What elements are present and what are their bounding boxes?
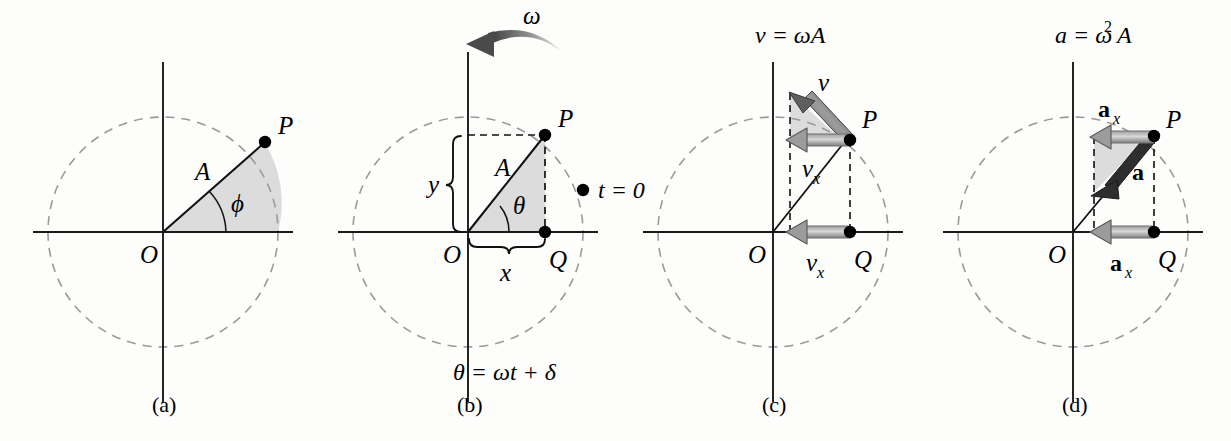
panel-c-label-p: P: [861, 106, 877, 133]
panel-c-label-vector-v: v: [818, 69, 830, 96]
panel-c-top-equation: v = ωA: [755, 22, 826, 48]
panel-a-label-angle-phi: ϕ: [231, 190, 244, 217]
panel-d-top-equation-tail: A: [1115, 22, 1132, 48]
panel-b-omega-arrow-tail: [488, 30, 562, 52]
panel-c-label-q: Q: [854, 246, 872, 273]
panel-c-vector-vx-lower: [786, 220, 850, 244]
panel-c-label-vx-upper: v x: [802, 155, 820, 187]
panel-a-point-p-marker: [259, 136, 271, 148]
panel-b-brace-y: [446, 136, 461, 232]
panel-b-label-brace-y: y: [425, 171, 440, 198]
panel-d-label-ax-lower: a x: [1110, 250, 1132, 281]
panel-d-label-ax-lower-sub: x: [1124, 264, 1132, 281]
panel-c-vector-vx-upper-shaft: [803, 134, 850, 146]
panel-c-label-vx-upper-sub: x: [812, 170, 820, 187]
panel-b-bottom-equation: θ = ωt + δ: [453, 359, 557, 385]
panel-d-label-q: Q: [1158, 246, 1176, 273]
panel-d-caption: (d): [1062, 392, 1088, 417]
panel-d-label-ax-lower-base: a: [1110, 250, 1122, 276]
panel-c-radius-line: [773, 135, 850, 232]
panel-d-top-equation: a = ω 2 A: [1055, 18, 1132, 48]
panel-c-point-q-marker: [844, 226, 856, 238]
panel-b-omega-arrow-head: [466, 31, 494, 57]
panel-b-label-omega: ω: [523, 2, 541, 29]
panel-c-vector-vx-lower-head: [786, 220, 807, 244]
panel-d-label-vector-a: a: [1132, 159, 1144, 185]
panel-d-vector-ax-lower-head: [1090, 220, 1111, 244]
panel-a-label-p: P: [277, 112, 293, 139]
panel-b-label-radius: A: [493, 154, 511, 181]
panel-b: ω P Q A θ y x O t = 0 θ = ωt + δ (b): [338, 2, 645, 417]
panel-a: P A ϕ O (a): [33, 62, 293, 417]
panel-b-label-origin: O: [443, 241, 461, 268]
panel-c: v = ωA P Q v v x v x O (c): [643, 22, 903, 417]
panel-a-label-origin: O: [140, 241, 158, 268]
panel-c-label-vx-lower-sub: x: [816, 264, 824, 281]
panel-b-t-zero-marker: [577, 184, 589, 196]
physics-figure-reference-circle: P A ϕ O (a): [0, 0, 1231, 441]
panel-b-label-p: P: [557, 105, 573, 132]
panel-d-point-p-marker: [1148, 130, 1160, 142]
panel-d-vector-ax-upper-shaft: [1107, 131, 1154, 143]
panel-a-label-radius: A: [193, 158, 211, 185]
panel-b-label-q: Q: [549, 246, 567, 273]
panel-b-caption: (b): [457, 392, 483, 417]
panel-d-top-equation-exponent: 2: [1104, 18, 1112, 35]
panel-c-label-origin: O: [748, 241, 766, 268]
panel-d-label-ax-upper-base: a: [1098, 96, 1110, 122]
panel-d-vector-ax-lower-shaft: [1107, 226, 1154, 238]
panel-d-vector-ax-lower: [1090, 220, 1154, 244]
panel-b-point-q-marker: [539, 226, 551, 238]
panel-d-point-q-marker: [1148, 226, 1160, 238]
figure-canvas: P A ϕ O (a): [0, 0, 1231, 441]
panel-a-shaded-sector: [163, 143, 282, 233]
panel-c-caption: (c): [762, 392, 786, 417]
panel-d-label-origin: O: [1048, 241, 1066, 268]
panel-d: a = ω 2 A P Q a a x a x O (d): [943, 18, 1203, 417]
panel-b-label-angle-theta: θ: [513, 192, 525, 219]
panel-c-vector-vx-lower-shaft: [803, 226, 850, 238]
panel-a-caption: (a): [152, 392, 176, 417]
panel-c-point-p-marker: [844, 134, 856, 146]
panel-b-point-p-marker: [539, 129, 551, 141]
panel-d-label-ax-upper-sub: x: [1112, 110, 1120, 127]
panel-b-brace-x: [469, 239, 545, 254]
panel-d-label-p: P: [1165, 106, 1181, 133]
panel-b-label-t-zero: t = 0: [598, 177, 645, 203]
panel-b-label-brace-x: x: [499, 259, 511, 286]
panel-c-label-vx-lower: v x: [806, 249, 824, 281]
